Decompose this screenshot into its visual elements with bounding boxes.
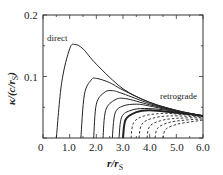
x-tick-3: 3.0 [116,142,130,153]
series-line-9 [147,118,203,138]
y-tick-0-1: 0.1 [24,72,38,83]
x-tick-1: 1.0 [62,142,76,153]
plot-area [0,0,223,175]
series-line-8 [139,116,203,138]
y-axis-label-end: ) [5,72,17,76]
x-tick-4: 4.0 [143,142,157,153]
series-line-10 [155,119,203,138]
annotation-direct: direct [47,34,68,43]
y-axis-label-sub: S [11,76,20,80]
annotation-retrograde: retrograde [160,92,197,101]
x-tick-2: 2.0 [89,142,103,153]
series-line-7 [131,113,203,138]
x-axis-label-sub: S [119,163,123,172]
series-line-6 [123,110,203,138]
x-tick-5: 5.0 [170,142,184,153]
series-line-1 [81,78,203,138]
y-axis-label-text: κ/(c/r [5,80,17,105]
x-axis-label-text: r/r [107,157,119,169]
x-tick-0: 0 [38,142,44,153]
y-axis-label: κ/(c/rS) [5,72,20,105]
x-tick-6: 6.0 [196,142,210,153]
x-axis-label: r/rS [107,157,123,172]
y-tick-0-2: 0.2 [24,10,38,21]
